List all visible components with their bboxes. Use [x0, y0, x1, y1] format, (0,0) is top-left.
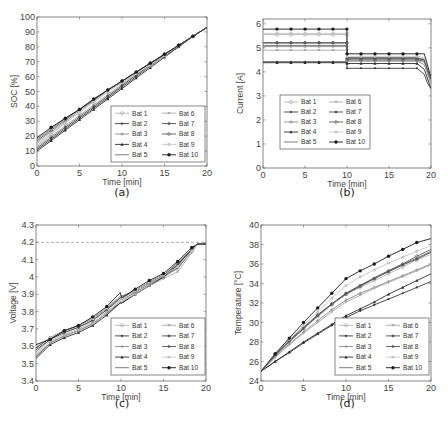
legend-label: Bat 9	[179, 141, 195, 148]
x-tick-label: 15	[383, 383, 393, 393]
y-tick-label: 0	[256, 163, 261, 173]
y-tick-label: 90	[25, 27, 35, 37]
x-tick-label: 15	[159, 168, 169, 178]
y-tick-label: 30	[25, 116, 35, 126]
y-tick-label: 3	[256, 91, 261, 101]
legend-label: Bat 8	[346, 118, 362, 125]
legend-label: Bat 1	[356, 322, 372, 329]
legend-label: Bat 1	[132, 322, 148, 329]
y-tick-label: 3.9	[21, 289, 34, 299]
y-tick-label: 2	[256, 115, 261, 125]
legend-label: Bat 8	[403, 343, 419, 350]
y-tick-label: 4	[29, 272, 34, 282]
y-tick-label: 0	[30, 161, 35, 171]
legend-label: Bat 3	[132, 130, 148, 137]
x-tick-label: 15	[158, 383, 168, 393]
panel-a: 051015200102030405060708090100Time [min]…	[9, 12, 212, 187]
legend-label: Bat 7	[346, 108, 362, 115]
y-tick-label: 60	[25, 72, 35, 82]
legend-label: Bat 3	[132, 343, 148, 350]
y-axis-label: Temperature [°C]	[233, 271, 243, 335]
y-tick-label: 38	[249, 240, 259, 250]
legend-label: Bat 3	[301, 118, 317, 125]
y-tick-label: 36	[249, 259, 259, 269]
y-tick-label: 6	[256, 19, 261, 29]
y-axis-label: Current [A]	[235, 73, 245, 114]
legend-label: Bat 2	[132, 120, 148, 127]
legend-label: Bat 10	[403, 364, 422, 371]
y-tick-label: 24	[249, 376, 259, 386]
x-tick-label: 0	[260, 170, 265, 180]
legend: Bat 1Bat 2Bat 3Bat 4Bat 5Bat 6Bat 7Bat 8…	[111, 318, 205, 375]
y-tick-label: 1	[256, 139, 261, 149]
legend-label: Bat 8	[179, 130, 195, 137]
y-tick-label: 4.1	[21, 255, 34, 265]
legend-label: Bat 6	[346, 98, 362, 105]
legend: Bat 1Bat 2Bat 3Bat 4Bat 5Bat 6Bat 7Bat 8…	[335, 318, 429, 375]
panel-label: (c)	[115, 397, 130, 410]
legend-label: Bat 4	[356, 353, 372, 360]
legend-label: Bat 1	[132, 110, 148, 117]
legend-label: Bat 5	[132, 151, 148, 158]
legend-label: Bat 4	[132, 353, 148, 360]
legend-label: Bat 9	[179, 353, 195, 360]
x-tick-label: 5	[302, 170, 307, 180]
legend-label: Bat 5	[301, 138, 317, 145]
legend-label: Bat 6	[403, 322, 419, 329]
x-tick-label: 20	[202, 168, 212, 178]
panel-label: (a)	[114, 186, 129, 199]
panel-label: (d)	[339, 397, 355, 410]
y-tick-label: 3.5	[21, 359, 34, 369]
y-tick-label: 4	[256, 67, 261, 77]
y-tick-label: 3.6	[21, 341, 34, 351]
y-tick-label: 40	[249, 220, 259, 230]
x-tick-label: 0	[258, 383, 263, 393]
x-tick-label: 0	[33, 383, 38, 393]
figure-canvas: 051015200102030405060708090100Time [min]…	[0, 0, 448, 424]
y-tick-label: 4.3	[21, 220, 34, 230]
panel-c: 051015203.43.53.63.73.83.944.14.24.3Time…	[8, 220, 211, 402]
x-tick-label: 5	[76, 383, 81, 393]
legend-label: Bat 7	[179, 120, 195, 127]
x-tick-label: 20	[426, 170, 436, 180]
y-tick-label: 32	[249, 298, 259, 308]
legend: Bat 1Bat 2Bat 3Bat 4Bat 5Bat 6Bat 7Bat 8…	[111, 106, 205, 162]
legend-label: Bat 7	[179, 332, 195, 339]
y-tick-label: 70	[25, 57, 35, 67]
legend-label: Bat 5	[132, 364, 148, 371]
y-axis-label: SOC [%]	[9, 75, 19, 108]
y-tick-label: 80	[25, 42, 35, 52]
y-tick-label: 3.7	[21, 324, 34, 334]
y-tick-label: 10	[25, 146, 35, 156]
x-tick-label: 20	[426, 383, 436, 393]
legend-label: Bat 6	[179, 110, 195, 117]
legend-label: Bat 2	[132, 332, 148, 339]
x-tick-label: 15	[384, 170, 394, 180]
panel-d: 05101520242628303234363840Time [min]Temp…	[233, 220, 436, 402]
legend-label: Bat 5	[356, 364, 372, 371]
legend-label: Bat 10	[346, 138, 365, 145]
legend-label: Bat 9	[346, 128, 362, 135]
y-tick-label: 26	[249, 357, 259, 367]
x-tick-label: 20	[201, 383, 211, 393]
legend: Bat 1Bat 2Bat 3Bat 4Bat 5Bat 6Bat 7Bat 8…	[280, 95, 370, 149]
legend-label: Bat 4	[301, 128, 317, 135]
y-tick-label: 100	[20, 12, 35, 22]
y-tick-label: 28	[249, 337, 259, 347]
y-tick-label: 50	[25, 87, 35, 97]
y-tick-label: 5	[256, 43, 261, 53]
legend-label: Bat 6	[179, 322, 195, 329]
x-tick-label: 5	[301, 383, 306, 393]
legend-label: Bat 8	[179, 343, 195, 350]
y-tick-label: 3.4	[21, 376, 34, 386]
y-tick-label: 3.8	[21, 307, 34, 317]
panel-b: 051015200123456Time [min]Current [A]Bat …	[235, 19, 436, 189]
y-tick-label: 34	[249, 279, 259, 289]
legend-label: Bat 9	[403, 353, 419, 360]
legend-label: Bat 2	[301, 108, 317, 115]
legend-label: Bat 10	[179, 151, 198, 158]
y-tick-label: 30	[249, 318, 259, 328]
legend-label: Bat 1	[301, 98, 317, 105]
legend-label: Bat 4	[132, 141, 148, 148]
legend-label: Bat 2	[356, 332, 372, 339]
